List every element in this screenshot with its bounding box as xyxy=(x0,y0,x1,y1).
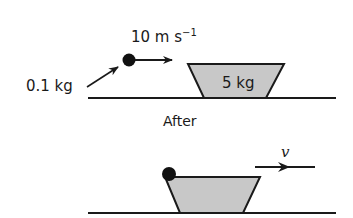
after-label: After xyxy=(163,113,197,129)
before-scene: 5 kg 10 m s−1 0.1 kg xyxy=(26,27,336,98)
ball-mass-pointer-arrow xyxy=(87,67,118,87)
ball-mass-label: 0.1 kg xyxy=(26,77,73,95)
block-mass-label: 5 kg xyxy=(222,74,255,92)
block-after xyxy=(165,177,260,213)
collision-diagram: 5 kg 10 m s−1 0.1 kg After v xyxy=(0,0,353,218)
after-scene: v xyxy=(88,143,336,213)
combined-velocity-label: v xyxy=(281,143,290,161)
ball-velocity-label: 10 m s−1 xyxy=(131,27,197,46)
ball-after xyxy=(162,167,176,181)
ball-before xyxy=(123,54,136,67)
